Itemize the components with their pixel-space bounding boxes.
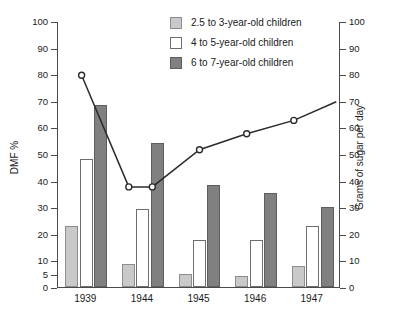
y-axis-left-tick-label: 10 xyxy=(37,256,48,266)
legend-swatch-icon xyxy=(170,57,182,69)
y-axis-right-tick xyxy=(340,208,346,209)
y-axis-right-tick-label: 0 xyxy=(349,283,354,293)
y-axis-left-tick xyxy=(51,75,57,76)
legend-item: 6 to 7-year-old children xyxy=(170,54,302,71)
legend-label: 2.5 to 3-year-old children xyxy=(191,17,302,28)
y-axis-left-tick-label: 70 xyxy=(37,97,48,107)
y-axis-left-tick-label: 20 xyxy=(37,230,48,240)
y-axis-left-tick xyxy=(51,102,57,103)
y-axis-left-tick xyxy=(51,128,57,129)
y-axis-right-tick xyxy=(340,75,346,76)
x-axis-tick-label: 1945 xyxy=(174,293,224,304)
y-axis-left-tick-label: 0 xyxy=(43,283,48,293)
data-point-marker xyxy=(149,184,155,190)
y-axis-right-tick xyxy=(340,102,346,103)
y-axis-right-tick-label: 80 xyxy=(349,70,360,80)
legend-label: 6 to 7-year-old children xyxy=(191,57,293,68)
y-axis-right-tick xyxy=(340,182,346,183)
x-axis-tick-label: 1939 xyxy=(60,293,110,304)
y-axis-right-tick-label: 20 xyxy=(349,230,360,240)
y-axis-right-tick xyxy=(340,288,346,289)
y-axis-left-tick-label: 60 xyxy=(37,123,48,133)
y-axis-left-tick-label: 50 xyxy=(37,150,48,160)
y-axis-right-title: Grams of sugar per day xyxy=(354,98,365,218)
y-axis-right-tick xyxy=(340,261,346,262)
y-axis-left-tick-label: 30 xyxy=(37,203,48,213)
y-axis-right-tick xyxy=(340,49,346,50)
data-point-marker xyxy=(244,131,250,137)
y-axis-left-tick xyxy=(51,208,57,209)
y-axis-left-tick xyxy=(51,261,57,262)
y-axis-right-tick-label: 100 xyxy=(349,17,365,27)
y-axis-left-title: DMF % xyxy=(9,128,20,188)
y-axis-left-tick xyxy=(51,155,57,156)
y-axis-left-tick xyxy=(51,275,57,276)
y-axis-left-tick xyxy=(51,288,57,289)
y-axis-left-tick xyxy=(51,235,57,236)
legend-swatch-icon xyxy=(170,17,182,29)
chart-legend: 2.5 to 3-year-old children4 to 5-year-ol… xyxy=(170,14,302,74)
legend-item: 4 to 5-year-old children xyxy=(170,34,302,51)
legend-item: 2.5 to 3-year-old children xyxy=(170,14,302,31)
data-point-marker xyxy=(79,72,85,78)
data-point-marker xyxy=(197,147,203,153)
x-axis-tick-label: 1946 xyxy=(230,293,280,304)
y-axis-left-tick-label: 100 xyxy=(32,17,48,27)
legend-swatch-icon xyxy=(170,37,182,49)
x-axis-tick-label: 1944 xyxy=(117,293,167,304)
x-axis-tick-label: 1947 xyxy=(287,293,337,304)
sugar-line-path xyxy=(82,75,337,187)
y-axis-left-tick-label: 90 xyxy=(37,44,48,54)
chart-figure: 05102030405060708090100 DMF % 0102030405… xyxy=(0,0,412,317)
legend-label: 4 to 5-year-old children xyxy=(191,37,293,48)
data-point-marker xyxy=(291,117,297,123)
y-axis-right-tick xyxy=(340,128,346,129)
y-axis-left-tick-label: 80 xyxy=(37,70,48,80)
y-axis-left-tick-label: 5 xyxy=(43,270,48,280)
y-axis-left-tick-label: 40 xyxy=(37,177,48,187)
data-point-marker xyxy=(126,184,132,190)
y-axis-left-tick xyxy=(51,49,57,50)
y-axis-right-tick xyxy=(340,155,346,156)
y-axis-right-tick-label: 90 xyxy=(349,44,360,54)
y-axis-right-tick-label: 10 xyxy=(349,256,360,266)
y-axis-left-tick xyxy=(51,182,57,183)
y-axis-right-tick xyxy=(340,235,346,236)
y-axis-right-tick xyxy=(340,22,346,23)
y-axis-left-tick xyxy=(51,22,57,23)
